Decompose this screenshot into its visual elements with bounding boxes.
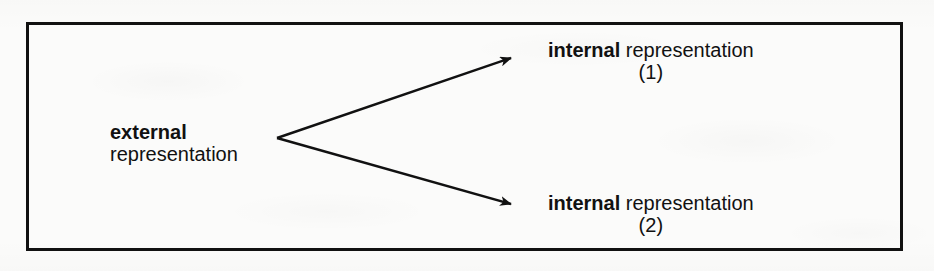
node-label-external-plain: representation: [110, 143, 238, 165]
node-label-internal-2-plain: representation: [620, 192, 753, 214]
node-label-internal-1-main: internal representation: [548, 39, 754, 61]
node-label-internal-1-plain: representation: [620, 39, 753, 61]
figure-container: external representation internal represe…: [0, 0, 934, 271]
arrow-to-internal-2: [277, 138, 511, 204]
node-label-external-emphasis: external: [110, 121, 238, 143]
node-label-internal-2-main: internal representation: [548, 192, 754, 214]
node-label-internal-1-emphasis: internal: [548, 39, 620, 61]
arrow-to-internal-1: [277, 58, 511, 138]
node-label-internal-2-index: (2): [548, 214, 754, 236]
node-label-internal-2: internal representation (2): [548, 192, 754, 237]
node-label-external: external representation: [110, 121, 238, 166]
node-label-internal-1-index: (1): [548, 61, 754, 83]
node-label-internal-2-emphasis: internal: [548, 192, 620, 214]
node-label-internal-1: internal representation (1): [548, 39, 754, 84]
